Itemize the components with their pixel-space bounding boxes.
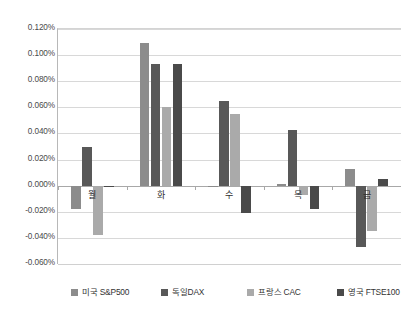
gridline (58, 238, 401, 239)
legend-swatch-icon (71, 289, 78, 296)
legend-item[interactable]: 영국 FTSE100 (337, 288, 400, 297)
legend-label: 미국 S&P500 (82, 288, 129, 297)
gridline (58, 264, 401, 265)
gridline (58, 81, 401, 82)
bar (345, 169, 355, 186)
y-axis-tick-label: 0.080% (3, 76, 55, 84)
y-axis-tick-label: -0.060% (3, 259, 55, 267)
y-axis-tick-label: 0.020% (3, 155, 55, 163)
plot-area: 월화수목금 (57, 28, 401, 264)
bar (277, 184, 287, 185)
legend-item[interactable]: 미국 S&P500 (71, 288, 129, 297)
gridline (58, 107, 401, 108)
legend-label: 영국 FTSE100 (348, 288, 400, 297)
bar (140, 43, 150, 185)
legend-swatch-icon (161, 289, 168, 296)
y-axis-tick-label: -0.020% (3, 207, 55, 215)
legend-item[interactable]: 프랑스 CAC (247, 288, 301, 297)
x-axis-category-label: 월 (58, 190, 127, 200)
x-axis-category-label: 목 (264, 190, 333, 200)
gridline (58, 212, 401, 213)
legend-swatch-icon (337, 289, 344, 296)
x-axis-category-label: 금 (332, 190, 401, 200)
bar (208, 186, 218, 187)
legend-swatch-icon (247, 289, 254, 296)
bar (230, 114, 240, 186)
bar (219, 101, 229, 186)
x-axis-category-label: 수 (195, 190, 264, 200)
y-axis-tick-label: -0.040% (3, 233, 55, 241)
gridline (58, 29, 401, 30)
legend-label: 프랑스 CAC (258, 288, 301, 297)
y-axis-tick-label: 0.040% (3, 128, 55, 136)
bar (173, 64, 183, 185)
y-axis-tick-label: 0.000% (3, 181, 55, 189)
bar (288, 130, 298, 186)
chart-legend: 미국 S&P500독일DAX프랑스 CAC영국 FTSE100 (57, 283, 401, 301)
y-axis-tick-label: 0.100% (3, 50, 55, 58)
gridline (58, 55, 401, 56)
y-axis-tick-label: 0.060% (3, 102, 55, 110)
x-axis-category-label: 화 (127, 190, 196, 200)
y-axis-tick-label: 0.120% (3, 24, 55, 32)
bar-chart: 0.120%0.100%0.080%0.060%0.040%0.020%0.00… (0, 0, 419, 318)
bar (162, 107, 172, 185)
bar (378, 179, 388, 186)
legend-item[interactable]: 독일DAX (161, 288, 204, 297)
bar (104, 186, 114, 187)
y-axis: 0.120%0.100%0.080%0.060%0.040%0.020%0.00… (0, 28, 55, 264)
legend-label: 독일DAX (172, 288, 204, 297)
bar (82, 147, 92, 186)
bar (151, 64, 161, 185)
